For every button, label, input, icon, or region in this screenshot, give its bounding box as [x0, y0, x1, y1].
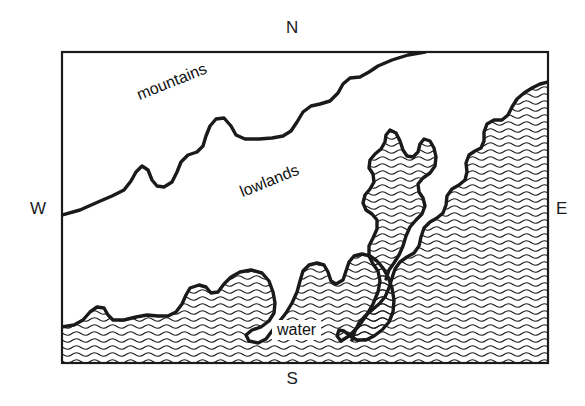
- region-label-water: water: [272, 320, 321, 340]
- compass-label-south: S: [0, 369, 585, 389]
- map-figure: N S W E mountains lowlands water: [0, 0, 585, 406]
- map-body: [62, 52, 548, 362]
- compass-label-east: E: [556, 199, 568, 219]
- map-canvas: [0, 0, 585, 406]
- compass-label-west: W: [30, 199, 47, 219]
- compass-label-north: N: [0, 18, 585, 38]
